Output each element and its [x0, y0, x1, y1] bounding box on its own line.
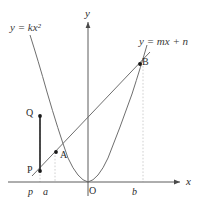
- math-figure: y = kx² y = mx + n y x O p a b P Q A B: [0, 0, 203, 212]
- origin-label: O: [89, 186, 96, 196]
- point-A-marker: [54, 150, 58, 154]
- equation-label-parabola: y = kx²: [10, 22, 41, 33]
- point-P-marker: [38, 169, 42, 173]
- point-label-Q: Q: [26, 108, 33, 118]
- tick-label-a: a: [43, 187, 48, 197]
- point-label-B: B: [142, 57, 149, 67]
- line-mx-plus-n: [32, 52, 150, 176]
- point-label-A: A: [60, 150, 67, 160]
- tick-label-p: p: [28, 187, 33, 197]
- equation-label-line: y = mx + n: [139, 36, 188, 47]
- x-axis-label: x: [186, 176, 191, 187]
- dotted-guides: [40, 66, 143, 182]
- y-axis-arrowhead: [86, 22, 91, 28]
- y-axis-label: y: [85, 8, 90, 19]
- tick-label-b: b: [132, 187, 137, 197]
- x-axis-arrowhead: [174, 180, 180, 185]
- point-label-P: P: [27, 165, 33, 175]
- point-Q-marker: [38, 114, 42, 118]
